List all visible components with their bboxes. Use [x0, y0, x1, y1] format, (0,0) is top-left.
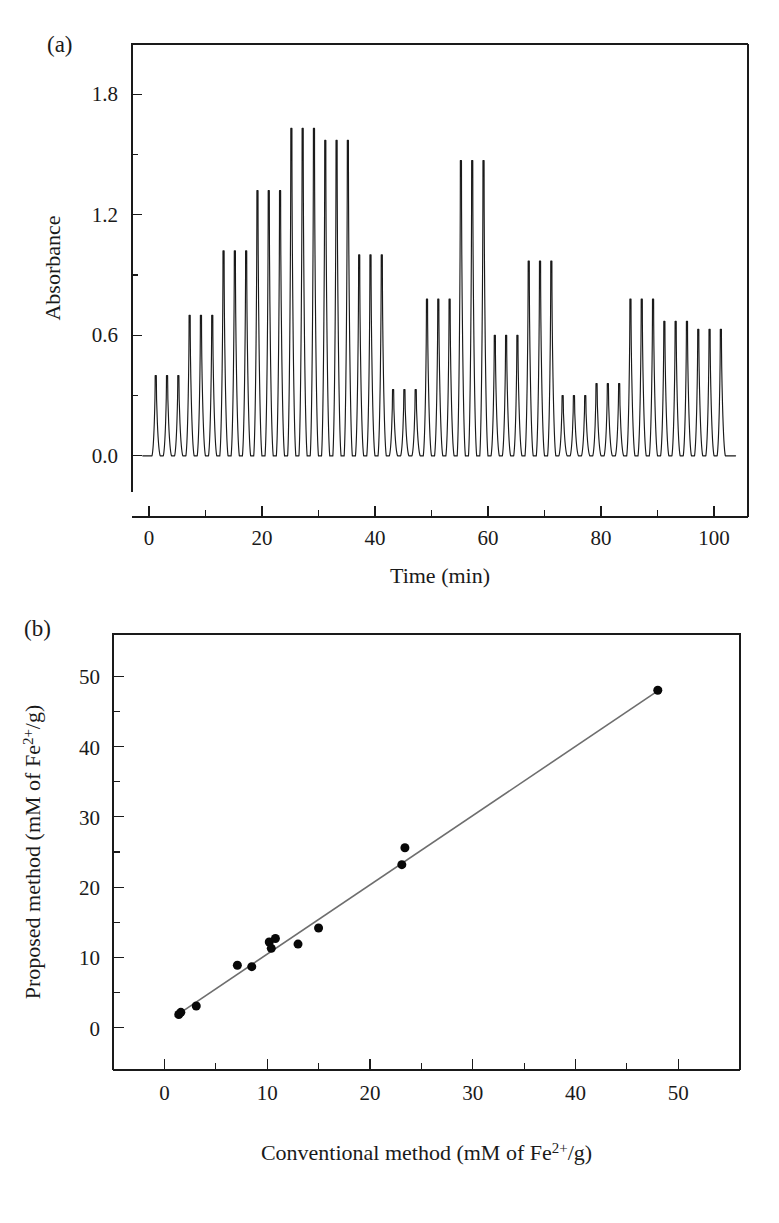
x-tick-label: 0 — [144, 526, 155, 550]
x-axis-ticks: 020406080100 — [144, 506, 730, 550]
y-tick-label: 20 — [79, 876, 100, 900]
panel-b-svg: (b)0102030405001020304050Conventional me… — [0, 590, 779, 1223]
panel-a-chromatogram: (a)0.00.61.21.8020406080100Time (min)Abs… — [0, 0, 779, 600]
x-tick-label: 30 — [462, 1081, 483, 1105]
absorbance-trace — [143, 128, 736, 455]
data-point-2 — [176, 1008, 185, 1017]
y-axis-title: Proposed method (mM of Fe2+/g) — [20, 705, 45, 1000]
data-point-11 — [397, 860, 406, 869]
panel-a-label: (a) — [47, 32, 73, 57]
x-axis-title: Conventional method (mM of Fe2+/g) — [261, 1140, 592, 1165]
y-tick-label: 1.8 — [92, 82, 118, 106]
data-point-10 — [314, 923, 323, 932]
panel-b-label: (b) — [24, 616, 51, 641]
data-point-9 — [294, 940, 303, 949]
data-point-4 — [233, 961, 242, 970]
y-tick-label: 10 — [79, 946, 100, 970]
y-tick-label: 1.2 — [92, 203, 118, 227]
data-point-7 — [267, 944, 276, 953]
data-point-8 — [271, 934, 280, 943]
y-axis-ticks: 01020304050 — [79, 665, 124, 1041]
y-tick-label: 50 — [79, 665, 100, 689]
x-tick-label: 40 — [565, 1081, 586, 1105]
y-tick-label: 0.0 — [92, 444, 118, 468]
x-tick-label: 100 — [698, 526, 730, 550]
data-point-12 — [400, 843, 409, 852]
data-point-13 — [653, 686, 662, 695]
x-tick-label: 20 — [359, 1081, 380, 1105]
y-tick-label: 40 — [79, 736, 100, 760]
panel-a-svg: (a)0.00.61.21.8020406080100Time (min)Abs… — [0, 0, 779, 600]
figure-page: (a)0.00.61.21.8020406080100Time (min)Abs… — [0, 0, 779, 1223]
x-tick-label: 50 — [668, 1081, 689, 1105]
y-tick-label: 30 — [79, 806, 100, 830]
x-tick-label: 80 — [591, 526, 612, 550]
data-point-5 — [247, 962, 256, 971]
peak-labels: 0.1 mM0.2 mM0.3 mM0.4 mM0.5 mMSMP-1SMP-2… — [154, 0, 762, 4]
y-tick-label: 0 — [90, 1017, 101, 1041]
x-axis-title: Time (min) — [390, 563, 490, 588]
x-tick-label: 20 — [251, 526, 272, 550]
x-axis-ticks: 01020304050 — [159, 1059, 689, 1105]
panel-b-correlation: (b)0102030405001020304050Conventional me… — [0, 590, 779, 1223]
x-tick-label: 40 — [365, 526, 386, 550]
peak-group-label-17: SMP-12 — [696, 0, 761, 4]
y-axis-ticks: 0.00.61.21.8 — [92, 82, 142, 468]
y-tick-label: 0.6 — [92, 323, 118, 347]
y-axis-title: Absorbance — [40, 215, 65, 320]
data-point-3 — [192, 1002, 201, 1011]
x-tick-label: 60 — [478, 526, 499, 550]
x-tick-label: 0 — [159, 1081, 170, 1105]
x-tick-label: 10 — [257, 1081, 278, 1105]
